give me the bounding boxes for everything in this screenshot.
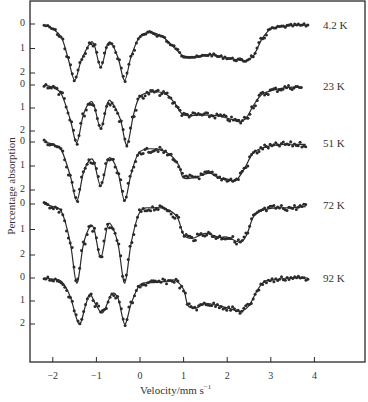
data-point bbox=[159, 281, 162, 284]
data-point bbox=[65, 106, 68, 109]
data-point bbox=[118, 301, 121, 304]
data-point bbox=[287, 84, 290, 87]
data-point bbox=[160, 148, 163, 151]
data-point bbox=[293, 204, 296, 207]
data-point bbox=[211, 171, 214, 174]
data-point bbox=[144, 284, 147, 287]
data-point bbox=[133, 294, 136, 297]
data-point bbox=[112, 45, 115, 48]
data-point bbox=[261, 283, 264, 286]
data-point bbox=[216, 303, 219, 306]
data-point bbox=[176, 279, 179, 282]
data-point bbox=[76, 143, 79, 146]
data-point bbox=[220, 305, 223, 308]
data-point bbox=[132, 233, 135, 236]
data-point bbox=[59, 147, 62, 150]
data-point bbox=[61, 150, 64, 153]
data-point bbox=[95, 51, 98, 54]
data-point bbox=[248, 155, 251, 158]
data-point bbox=[181, 230, 184, 233]
x-tick-label: −2 bbox=[43, 370, 63, 381]
data-point bbox=[133, 115, 136, 118]
data-point bbox=[170, 153, 173, 156]
data-point bbox=[97, 175, 100, 178]
data-point bbox=[227, 306, 230, 309]
data-point bbox=[212, 301, 215, 304]
data-point bbox=[116, 112, 119, 115]
data-point bbox=[272, 280, 275, 283]
data-point bbox=[286, 209, 289, 212]
data-point bbox=[282, 140, 285, 143]
data-point bbox=[77, 320, 80, 323]
x-tick-label: 3 bbox=[261, 370, 281, 381]
data-point bbox=[101, 181, 104, 184]
data-point bbox=[158, 146, 161, 149]
data-point bbox=[110, 42, 113, 45]
y-tick-label: 1 bbox=[13, 159, 25, 170]
x-axis-label-text: Velocity/mm s bbox=[140, 384, 204, 396]
data-point bbox=[134, 224, 137, 227]
data-point bbox=[237, 119, 240, 122]
data-point bbox=[214, 117, 217, 120]
data-point bbox=[71, 181, 74, 184]
y-axis-ticks bbox=[30, 24, 35, 324]
data-point bbox=[102, 240, 105, 243]
data-point bbox=[256, 99, 259, 102]
data-point bbox=[93, 162, 96, 165]
data-point bbox=[261, 91, 264, 94]
data-point bbox=[121, 275, 124, 278]
data-point bbox=[63, 47, 66, 50]
data-point bbox=[124, 324, 127, 327]
data-point bbox=[75, 75, 78, 78]
data-point bbox=[74, 196, 77, 199]
data-point bbox=[228, 120, 231, 123]
data-point bbox=[237, 178, 240, 181]
data-point bbox=[274, 86, 277, 89]
spectrum-92-k bbox=[43, 275, 310, 327]
data-point bbox=[134, 160, 137, 163]
data-point bbox=[225, 309, 228, 312]
data-point bbox=[73, 309, 76, 312]
data-point bbox=[130, 241, 133, 244]
data-point bbox=[116, 295, 119, 298]
data-point bbox=[300, 205, 303, 208]
y-tick-label: 0 bbox=[13, 135, 25, 146]
mossbauer-spectra-chart bbox=[0, 0, 368, 402]
data-point bbox=[271, 277, 274, 280]
data-point bbox=[229, 177, 232, 180]
data-point bbox=[241, 170, 244, 173]
spectrum-72-k bbox=[43, 201, 308, 283]
data-point bbox=[84, 52, 87, 55]
y-tick-label: 0 bbox=[13, 271, 25, 282]
data-point bbox=[73, 79, 76, 82]
data-point bbox=[44, 140, 47, 143]
data-point bbox=[250, 217, 253, 220]
data-point bbox=[181, 172, 184, 175]
data-point bbox=[56, 207, 59, 210]
data-point bbox=[77, 69, 80, 72]
data-point bbox=[123, 279, 126, 282]
data-point bbox=[54, 28, 57, 31]
data-point bbox=[235, 243, 238, 246]
data-point bbox=[114, 232, 117, 235]
data-point bbox=[157, 89, 160, 92]
data-point bbox=[97, 305, 100, 308]
data-point bbox=[265, 281, 268, 284]
data-point bbox=[69, 296, 72, 299]
data-point bbox=[70, 120, 73, 123]
data-point bbox=[176, 48, 179, 51]
data-point bbox=[124, 80, 127, 83]
data-point bbox=[201, 173, 204, 176]
data-point bbox=[190, 236, 193, 239]
data-point bbox=[157, 150, 160, 153]
y-tick-label: 2 bbox=[13, 66, 25, 77]
data-point bbox=[142, 97, 145, 100]
data-point bbox=[59, 208, 62, 211]
data-point bbox=[145, 147, 148, 150]
data-point bbox=[144, 94, 147, 97]
data-point bbox=[179, 168, 182, 171]
data-point bbox=[122, 128, 125, 131]
temperature-label-72k: 72 K bbox=[323, 199, 345, 211]
x-tick-label: 4 bbox=[304, 370, 324, 381]
data-point bbox=[44, 83, 47, 86]
